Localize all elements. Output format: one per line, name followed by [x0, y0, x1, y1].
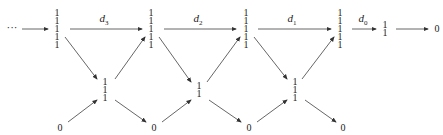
- bottom-node-b2: 0: [247, 124, 252, 132]
- top-node-t4: 1 1: [383, 21, 388, 37]
- map-label-d0: d0: [359, 12, 368, 27]
- bottom-node-b1: 0: [152, 124, 157, 132]
- middle-node-m2: 1 1 1: [293, 78, 298, 103]
- bottom-node-b0: 0: [58, 124, 63, 132]
- bottom-node-b3: 0: [341, 124, 346, 132]
- ellipsis-start: ···: [7, 23, 18, 31]
- top-node-t5: 0: [435, 25, 440, 33]
- top-node-t3: 1 1 1 1 1: [338, 9, 343, 50]
- map-label-d2: d2: [194, 12, 203, 27]
- middle-node-m1: 1 1: [197, 82, 202, 98]
- top-node-t2: 1 1 1 1 1: [244, 9, 249, 50]
- top-node-t0: 1 1 1 1 1: [55, 9, 60, 50]
- map-label-d3: d3: [100, 12, 109, 27]
- middle-node-m0: 1 1 1: [103, 78, 108, 103]
- top-node-t1: 1 1 1 1 1: [149, 9, 154, 50]
- diagram-arrows: [0, 0, 443, 135]
- map-label-d1: d1: [288, 12, 297, 27]
